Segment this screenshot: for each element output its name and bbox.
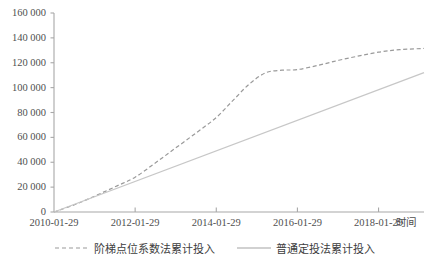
legend-item-stepped: 阶梯点位系数法累计投入 [55,240,215,256]
x-tick-label: 2010-01-29 [9,217,99,228]
axes-group [54,13,424,212]
y-tick-label: 100 000 [0,82,46,93]
chart-legend: 阶梯点位系数法累计投入 普通定投法累计投入 [0,239,430,257]
y-tick-label: 80 000 [0,107,46,118]
x-axis-title: 时间 [396,217,416,228]
chart-container: 160 000140 000120 000100 00080 00060 000… [0,0,430,259]
x-tick-label: 2016-01-29 [252,217,342,228]
series-line-1 [54,73,424,212]
x-tick-marks [135,208,378,213]
series-line-0 [54,48,424,212]
y-tick-label: 60 000 [0,131,46,142]
x-tick-label: 2012-01-29 [90,217,180,228]
legend-item-regular: 普通定投法累计投入 [237,240,375,256]
data-series-group [54,48,424,212]
y-tick-label: 20 000 [0,181,46,192]
y-tick-label: 140 000 [0,32,46,43]
legend-label-regular: 普通定投法累计投入 [276,240,375,256]
y-tick-label: 160 000 [0,7,46,18]
legend-label-stepped: 阶梯点位系数法累计投入 [94,240,215,256]
x-tick-label: 2014-01-29 [171,217,261,228]
y-tick-label: 120 000 [0,57,46,68]
legend-solid-line-icon [237,243,271,253]
legend-dashed-line-icon [55,243,89,253]
y-tick-label: 40 000 [0,156,46,167]
y-tick-label: 0 [0,206,46,217]
